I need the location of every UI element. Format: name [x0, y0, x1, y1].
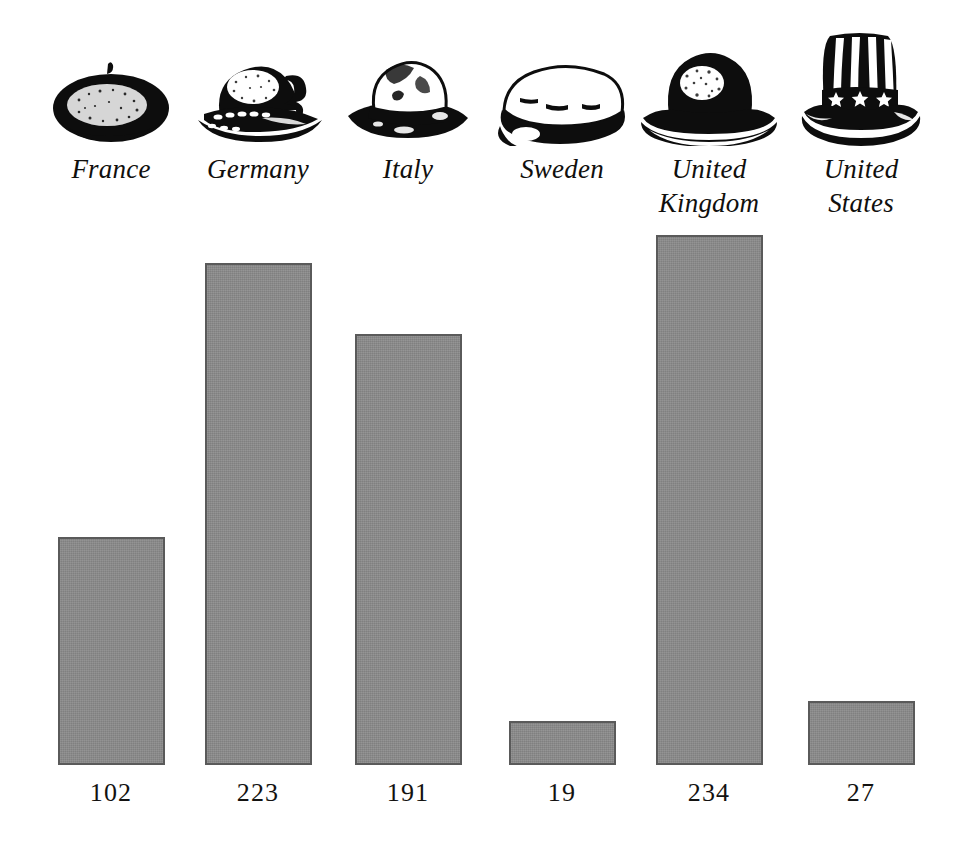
value-label-sweden: 19 — [477, 778, 647, 808]
value-label-france: 102 — [26, 778, 196, 808]
value-label-united-states: 27 — [776, 778, 946, 808]
uncle-sam-top-hat-icon — [786, 28, 936, 146]
bar-france — [58, 537, 165, 765]
student-cap-icon — [487, 28, 637, 146]
tyrolean-hat-icon — [183, 28, 333, 146]
bar-fill — [60, 539, 163, 763]
bar-chart-figure: France 102 — [0, 0, 958, 846]
chart-column-france: France 102 — [36, 0, 186, 846]
chart-column-italy: Italy 191 — [333, 0, 483, 846]
chart-column-germany: Germany 223 — [183, 0, 333, 846]
country-label-france: France — [26, 152, 196, 186]
chart-column-united-states: United States 27 — [786, 0, 936, 846]
bar-fill — [658, 237, 761, 763]
beret-hat-icon — [36, 28, 186, 146]
bar-germany — [205, 263, 312, 765]
bar-sweden — [509, 721, 616, 765]
country-label-united-states: United States — [776, 152, 946, 220]
bar-italy — [355, 334, 462, 765]
bar-united-states — [808, 701, 915, 765]
bar-fill — [511, 723, 614, 763]
bar-fill — [207, 265, 310, 763]
chart-columns: France 102 — [0, 0, 958, 846]
bowler-hat-icon — [634, 28, 784, 146]
value-label-germany: 223 — [173, 778, 343, 808]
value-label-italy: 191 — [323, 778, 493, 808]
fedora-hat-icon — [333, 28, 483, 146]
bar-fill — [357, 336, 460, 763]
country-label-italy: Italy — [323, 152, 493, 186]
country-label-united-kingdom: United Kingdom — [624, 152, 794, 220]
chart-column-sweden: Sweden 19 — [487, 0, 637, 846]
chart-column-united-kingdom: United Kingdom 234 — [634, 0, 784, 846]
country-label-germany: Germany — [173, 152, 343, 186]
country-label-sweden: Sweden — [477, 152, 647, 186]
bar-fill — [810, 703, 913, 763]
value-label-united-kingdom: 234 — [624, 778, 794, 808]
bar-united-kingdom — [656, 235, 763, 765]
